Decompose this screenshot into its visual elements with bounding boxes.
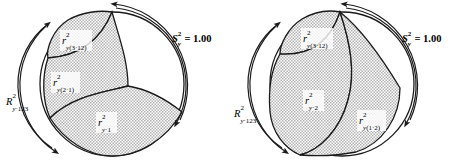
figure-root: r2y(3·12) r2y(2·1) r2y·1 R2y·123 S2y= 1.… <box>0 0 460 167</box>
left-panel <box>18 4 188 156</box>
right-panel <box>248 4 418 156</box>
ball-and-circle-diagram-svg <box>0 0 460 167</box>
